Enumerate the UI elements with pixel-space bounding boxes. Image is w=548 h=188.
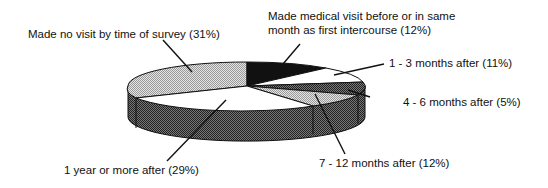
label-1-3-months: 1 - 3 months after (11%) [389,57,512,70]
label-medical-visit-line1: Made medical visit before or in same [268,10,455,23]
label-4-6-months: 4 - 6 months after (5%) [403,96,521,109]
label-1-year-plus: 1 year or more after (29%) [64,164,199,177]
label-7-12-months: 7 - 12 months after (12%) [319,157,449,170]
label-medical-visit-line2: month as first intercourse (12%) [268,24,431,37]
pie-top-face [127,62,365,111]
label-no-visit: Made no visit by time of survey (31%) [28,28,220,41]
